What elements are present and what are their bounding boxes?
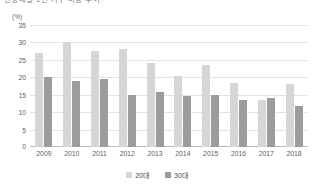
y-tick-label-0: 0 (22, 143, 26, 150)
y-tick-label-30: 30 (18, 39, 26, 46)
bar (295, 106, 303, 147)
bar (119, 49, 127, 147)
x-tick-label: 2016 (225, 150, 253, 157)
x-tick-label: 2012 (113, 150, 141, 157)
bar-group (169, 25, 197, 147)
bar (100, 79, 108, 147)
bar (267, 98, 275, 147)
bar (44, 77, 52, 147)
bar (258, 100, 266, 147)
bar (211, 95, 219, 147)
bar (156, 92, 164, 147)
y-tick-label-25: 25 (18, 56, 26, 63)
x-tick-label: 2014 (169, 150, 197, 157)
bar-group (252, 25, 280, 147)
bar (286, 84, 294, 147)
bars-layer (30, 25, 308, 147)
bar-chart-figure: 연령대별 1인 가구 비중 추이 (%) 35 30 25 20 15 10 5… (0, 0, 314, 189)
chart-title: 연령대별 1인 가구 비중 추이 (4, 0, 304, 4)
bar (128, 95, 136, 147)
bar (35, 53, 43, 147)
y-axis-unit-label: (%) (12, 13, 22, 20)
x-tick-label: 2010 (58, 150, 86, 157)
legend-item[interactable]: 30대 (165, 170, 188, 180)
bar-group (225, 25, 253, 147)
bar (147, 63, 155, 147)
x-tick-label: 2015 (197, 150, 225, 157)
plot-area: 35 30 25 20 15 10 5 0 (30, 25, 308, 147)
y-tick-label-20: 20 (18, 74, 26, 81)
bar-group (280, 25, 308, 147)
y-tick-label-10: 10 (18, 109, 26, 116)
legend-swatch-icon (165, 172, 171, 178)
x-tick-label: 2009 (30, 150, 58, 157)
legend-label: 20대 (135, 170, 149, 180)
legend-item[interactable]: 20대 (126, 170, 149, 180)
chart-legend: 20대30대 (0, 170, 314, 180)
bar (174, 76, 182, 147)
y-tick-label-15: 15 (18, 91, 26, 98)
y-tick-label-5: 5 (22, 126, 26, 133)
bar (63, 42, 71, 147)
bar-group (141, 25, 169, 147)
legend-label: 30대 (174, 170, 188, 180)
bar-group (86, 25, 114, 147)
x-tick-label: 2017 (252, 150, 280, 157)
x-tick-label: 2011 (86, 150, 114, 157)
bar (202, 65, 210, 147)
bar (72, 81, 80, 147)
x-axis-labels: 2009201020112012201320142015201620172018 (30, 150, 308, 157)
y-tick-label-35: 35 (18, 22, 26, 29)
bar-group (113, 25, 141, 147)
bar-group (58, 25, 86, 147)
x-tick-label: 2013 (141, 150, 169, 157)
x-tick-label: 2018 (280, 150, 308, 157)
bar (183, 96, 191, 147)
bar (239, 100, 247, 147)
legend-swatch-icon (126, 172, 132, 178)
bar (91, 51, 99, 147)
bar-group (197, 25, 225, 147)
bar-group (30, 25, 58, 147)
bar (230, 83, 238, 147)
